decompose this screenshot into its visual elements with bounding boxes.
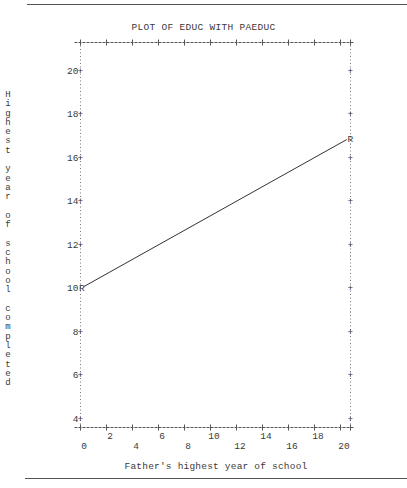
y-tick: + <box>78 327 84 338</box>
y-tick: + <box>78 370 84 381</box>
x-tick-label: 10 <box>208 431 220 442</box>
y-tick: + <box>78 414 84 425</box>
right-tick: + <box>348 109 354 120</box>
right-tick: + <box>348 196 354 207</box>
x-tick-label: 16 <box>286 441 298 452</box>
bottom-rule <box>25 478 407 479</box>
right-tick: + <box>348 370 354 381</box>
x-tick-label: 2 <box>107 431 113 442</box>
x-tick-label: 20 <box>338 441 350 452</box>
right-tick: + <box>348 327 354 338</box>
y-tick: + <box>78 109 84 120</box>
x-tick-label: 8 <box>185 441 191 452</box>
x-tick-label: 14 <box>260 431 272 442</box>
right-tick: + <box>348 414 354 425</box>
marker-right: R <box>348 134 354 145</box>
y-tick: + <box>78 240 84 251</box>
x-tick-label: 18 <box>312 431 324 442</box>
y-tick: + <box>78 153 84 164</box>
y-tick: + <box>78 196 84 207</box>
marker-left: R <box>79 283 85 294</box>
x-tick-label: 4 <box>133 441 139 452</box>
x-axis-label: Father's highest year of school <box>82 461 350 472</box>
x-tick-label: 0 <box>81 441 87 452</box>
x-tick-label: 6 <box>159 431 165 442</box>
right-tick: + <box>348 66 354 77</box>
right-tick: + <box>348 240 354 251</box>
right-tick: + <box>348 153 354 164</box>
plot-area: 024681012141618204++6++8++10+12++14++16+… <box>0 0 407 488</box>
x-tick-label: 12 <box>234 441 246 452</box>
regression-line <box>84 140 347 287</box>
y-tick: + <box>78 66 84 77</box>
y-tick-label: 10 <box>67 283 79 294</box>
right-tick: + <box>348 283 354 294</box>
